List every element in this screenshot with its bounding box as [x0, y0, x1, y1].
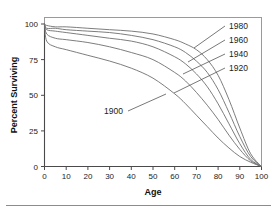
annotation-leaders	[128, 26, 225, 111]
y-tick-label-0: 0	[34, 163, 39, 172]
curve-1920	[45, 24, 262, 167]
survival-curves	[45, 24, 262, 167]
y-tick-label-75: 75	[29, 56, 38, 65]
series-label-1900: 1900	[104, 106, 123, 116]
footer-caption-fragment	[6, 212, 126, 220]
curve-1960	[45, 24, 262, 167]
footer-divider	[6, 205, 271, 206]
survival-curve-figure: 100 75 50 25 0 0 10 20 30 40 50 60 70 80…	[0, 0, 277, 222]
x-tick-label-70: 70	[192, 172, 201, 181]
x-tick-label-60: 60	[170, 172, 179, 181]
x-tick-label-100: 100	[255, 172, 269, 181]
series-label-1980: 1980	[229, 21, 248, 31]
x-tick-label-20: 20	[83, 172, 92, 181]
x-tick-label-10: 10	[62, 172, 71, 181]
curve-1940	[45, 24, 262, 167]
leader-1920	[174, 68, 225, 93]
series-label-1920: 1920	[229, 63, 248, 73]
x-tick-label-30: 30	[105, 172, 114, 181]
x-tick-label-80: 80	[214, 172, 223, 181]
x-tick-label-40: 40	[127, 172, 136, 181]
y-tick-label-100: 100	[25, 20, 39, 29]
x-tick-label-90: 90	[235, 172, 244, 181]
series-label-1940: 1940	[229, 49, 248, 59]
curve-1900	[45, 24, 262, 167]
y-tick-label-25: 25	[29, 127, 38, 136]
y-axis-title: Percent Surviving	[9, 57, 19, 134]
y-tick-label-50: 50	[29, 91, 38, 100]
chart-canvas: 100 75 50 25 0 0 10 20 30 40 50 60 70 80…	[0, 0, 277, 222]
curve-1980	[45, 24, 262, 167]
leader-1900	[128, 94, 166, 111]
x-tick-label-50: 50	[149, 172, 158, 181]
x-axis-title: Age	[144, 187, 161, 197]
leader-1980	[194, 26, 225, 48]
x-tick-label-0: 0	[42, 172, 47, 181]
series-label-1960: 1960	[229, 35, 248, 45]
